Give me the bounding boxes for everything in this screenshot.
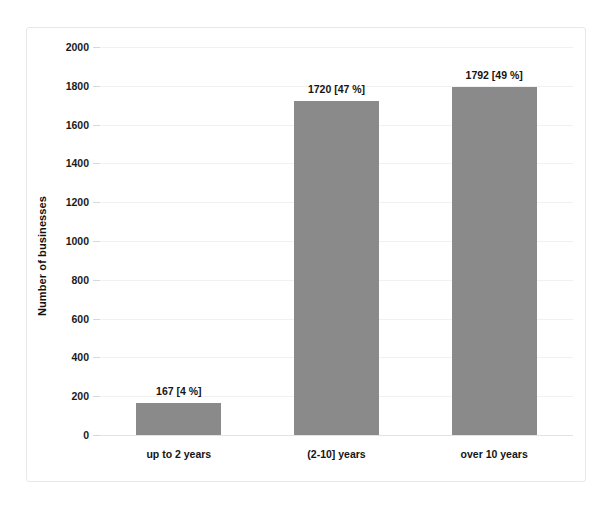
y-axis-tick-label: 400 bbox=[43, 351, 89, 363]
bar-slot: 1792 [49 %] bbox=[452, 47, 537, 435]
y-axis-tick-label: 200 bbox=[43, 390, 89, 402]
x-axis-category-label: over 10 years bbox=[461, 448, 528, 460]
y-axis-tick-mark bbox=[93, 86, 100, 87]
gridline bbox=[100, 435, 573, 436]
y-axis-title: Number of businesses bbox=[31, 28, 53, 483]
y-axis-tick-mark bbox=[93, 319, 100, 320]
y-axis-tick-label: 0 bbox=[43, 429, 89, 441]
bar-value-label: 1792 [49 %] bbox=[466, 69, 523, 81]
bar[interactable] bbox=[452, 87, 537, 435]
bar[interactable] bbox=[294, 101, 379, 435]
y-axis-tick-mark bbox=[93, 435, 100, 436]
y-axis-tick-mark bbox=[93, 163, 100, 164]
y-axis-tick-mark bbox=[93, 125, 100, 126]
y-axis-tick-mark bbox=[93, 202, 100, 203]
y-axis-tick-mark bbox=[93, 241, 100, 242]
y-axis-tick-label: 2000 bbox=[43, 41, 89, 53]
x-axis-category-label: (2-10] years bbox=[307, 448, 365, 460]
y-axis-tick-label: 800 bbox=[43, 274, 89, 286]
y-axis-tick-label: 600 bbox=[43, 313, 89, 325]
y-axis-tick-mark bbox=[93, 280, 100, 281]
bar-value-label: 1720 [47 %] bbox=[308, 83, 365, 95]
bar-slot: 1720 [47 %] bbox=[294, 47, 379, 435]
bar[interactable] bbox=[136, 403, 221, 435]
y-axis-tick-label: 1000 bbox=[43, 235, 89, 247]
plot-area: 167 [4 %]1720 [47 %]1792 [49 %] bbox=[100, 47, 573, 435]
bar-slot: 167 [4 %] bbox=[136, 47, 221, 435]
y-axis-tick-label: 1600 bbox=[43, 119, 89, 131]
bar-value-label: 167 [4 %] bbox=[156, 385, 202, 397]
x-axis-category-label: up to 2 years bbox=[146, 448, 211, 460]
y-axis-tick-mark bbox=[93, 357, 100, 358]
y-axis-tick-label: 1400 bbox=[43, 157, 89, 169]
y-axis-tick-mark bbox=[93, 47, 100, 48]
y-axis-title-label: Number of businesses bbox=[36, 196, 48, 316]
y-axis-tick-label: 1200 bbox=[43, 196, 89, 208]
y-axis-tick-label: 1800 bbox=[43, 80, 89, 92]
y-axis-tick-mark bbox=[93, 396, 100, 397]
bar-chart-figure: Number of businesses 2000180016001400120… bbox=[26, 27, 586, 482]
